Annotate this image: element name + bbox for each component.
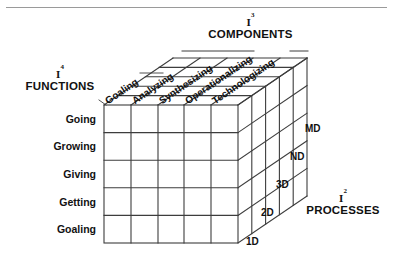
process-label-1d: 1D	[246, 236, 259, 247]
functions-exponent: 4	[60, 63, 64, 71]
axis-title-components: I3 COMPONENTS	[183, 16, 318, 40]
axis-title-processes: I2 PROCESSES	[296, 192, 390, 216]
process-label-2d: 2D	[261, 207, 274, 218]
function-label-giving: Giving	[0, 168, 96, 180]
front-face	[104, 105, 238, 243]
figure-canvas: I3 COMPONENTS I4 FUNCTIONS I2 PROCESSES …	[0, 0, 393, 260]
process-label-md: MD	[305, 123, 321, 134]
function-label-going: Going	[0, 113, 96, 125]
processes-symbol: I2	[296, 192, 390, 204]
functions-label: FUNCTIONS	[14, 80, 106, 92]
function-label-getting: Getting	[0, 196, 96, 208]
axis-title-functions: I4 FUNCTIONS	[14, 68, 106, 92]
processes-label: PROCESSES	[296, 204, 390, 216]
process-label-3d: 3D	[276, 179, 289, 190]
functions-symbol: I4	[14, 68, 106, 80]
function-label-growing: Growing	[0, 140, 96, 152]
function-label-goaling: Goaling	[0, 223, 96, 235]
components-symbol: I3	[183, 16, 318, 28]
components-exponent: 3	[251, 11, 255, 19]
process-label-nd: ND	[290, 151, 304, 162]
processes-exponent: 2	[343, 187, 347, 195]
components-label: COMPONENTS	[183, 28, 318, 40]
